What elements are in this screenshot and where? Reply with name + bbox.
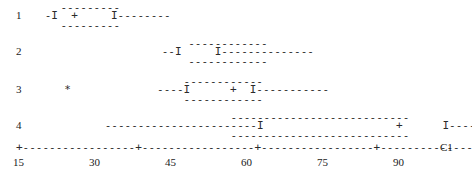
axis-tick-label-90: 90 <box>393 157 404 168</box>
axis-tick-label-60: 60 <box>241 157 252 168</box>
axis-tick-label-15: 15 <box>13 157 24 168</box>
axis-tick-label-45: 45 <box>165 157 176 168</box>
character-boxplot-figure: 1 --------- -I + I-------- --------- 2 -… <box>0 0 472 172</box>
axis-variable-label: C1 <box>440 142 453 153</box>
axis-line: +-----------------+-----------------+---… <box>16 142 472 153</box>
axis-tick-label-30: 30 <box>89 157 100 168</box>
row-1-box-bottom: --------- <box>0 20 120 31</box>
row-3-box-bottom: ------------ <box>0 94 263 105</box>
row-2-box-bottom: ------------ <box>0 56 268 67</box>
axis-tick-label-75: 75 <box>317 157 328 168</box>
row-4-box-bottom: --------------------------- <box>0 130 409 141</box>
